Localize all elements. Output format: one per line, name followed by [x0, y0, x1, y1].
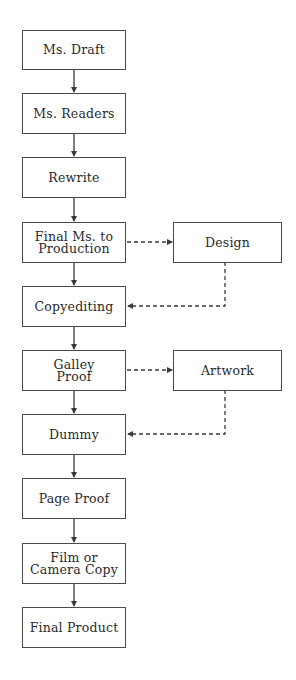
- step-label: Film or Camera Copy: [30, 552, 118, 576]
- step-copyediting: Copyediting: [22, 286, 126, 327]
- step-dummy: Dummy: [22, 414, 126, 455]
- flowchart-canvas: Ms. Draft Ms. Readers Rewrite Final Ms. …: [0, 0, 296, 680]
- step-label: Dummy: [49, 429, 99, 441]
- step-label: Page Proof: [39, 493, 110, 505]
- step-label: Rewrite: [48, 172, 99, 184]
- step-label: Final Product: [30, 622, 119, 634]
- step-rewrite: Rewrite: [22, 157, 126, 198]
- dashed-arrows: [127, 242, 225, 434]
- step-page-proof: Page Proof: [22, 478, 126, 519]
- step-ms-readers: Ms. Readers: [22, 93, 126, 134]
- step-galley-proof: Galley Proof: [22, 350, 126, 391]
- step-label: Ms. Readers: [33, 108, 114, 120]
- arrow-design-to-copyediting: [128, 262, 225, 306]
- step-label: Copyediting: [35, 301, 114, 313]
- step-label: Final Ms. to Production: [35, 231, 113, 255]
- step-design: Design: [173, 222, 282, 263]
- step-label: Galley Proof: [53, 359, 94, 383]
- arrow-artwork-to-dummy: [128, 390, 225, 434]
- step-label: Design: [205, 237, 250, 249]
- step-final-ms-to-production: Final Ms. to Production: [22, 222, 126, 263]
- step-final-product: Final Product: [22, 607, 126, 648]
- step-ms-draft: Ms. Draft: [22, 30, 126, 70]
- step-label: Artwork: [201, 365, 254, 377]
- step-artwork: Artwork: [173, 350, 282, 391]
- step-label: Ms. Draft: [43, 44, 105, 56]
- step-film-or-camera-copy: Film or Camera Copy: [22, 543, 126, 584]
